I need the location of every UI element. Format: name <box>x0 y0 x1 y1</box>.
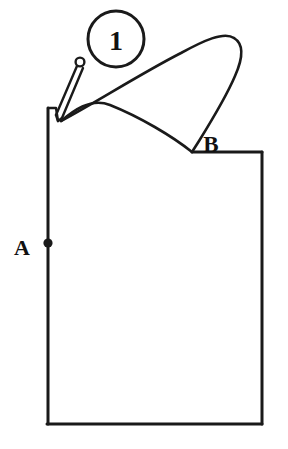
point-a-marker-dot <box>43 238 52 247</box>
panel-outline <box>47 108 262 424</box>
figure-root: 1 A B <box>0 0 288 449</box>
technical-figure: 1 A B <box>0 0 288 449</box>
callout-number: 1 <box>109 25 123 56</box>
label-b: B <box>203 132 218 157</box>
arc-upper-strand <box>61 36 234 121</box>
callout-1: 1 <box>88 11 144 67</box>
label-a: A <box>14 235 30 260</box>
pin-head-icon <box>76 58 85 67</box>
caption-remnant <box>0 440 288 449</box>
